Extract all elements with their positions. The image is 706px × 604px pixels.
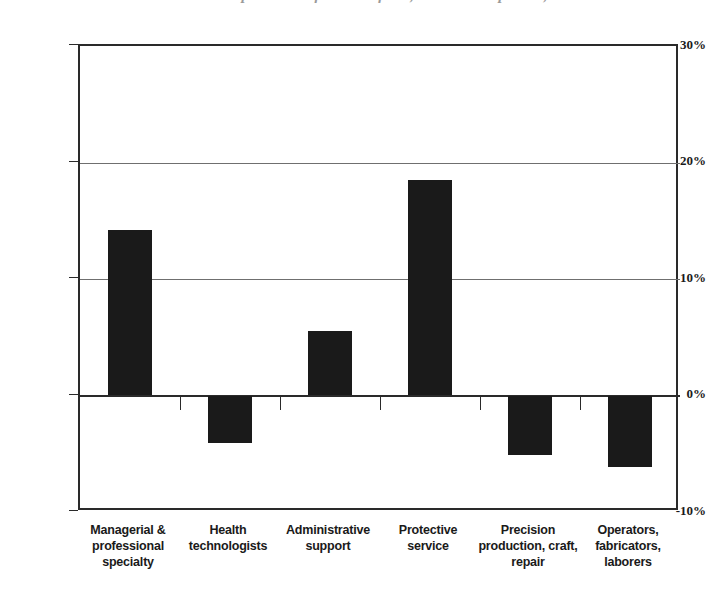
category-label: Administrativesupport xyxy=(278,522,378,554)
category-label-line: professional xyxy=(78,538,178,554)
x-axis-tick xyxy=(380,396,381,410)
x-axis-category-labels: Managerial &professionalspecialty Health… xyxy=(78,522,678,602)
category-label-line: Operators, xyxy=(578,522,678,538)
bar xyxy=(108,230,152,395)
category-label-line: Managerial & xyxy=(78,522,178,538)
bar-chart: Relative occupational shift in work forc… xyxy=(0,0,706,604)
y-axis-tick xyxy=(69,394,78,395)
bar xyxy=(208,396,252,444)
category-label: Protective service xyxy=(378,522,478,554)
category-label-line: production, craft, xyxy=(478,538,578,554)
category-label-line: specialty xyxy=(78,554,178,570)
y-axis-tick xyxy=(69,161,78,162)
category-label-line: support xyxy=(278,538,378,554)
bar xyxy=(308,331,352,395)
gridline-20 xyxy=(80,163,680,164)
category-label-line: Health xyxy=(178,522,278,538)
x-axis-tick xyxy=(580,396,581,410)
bar xyxy=(608,396,652,467)
gridline-10 xyxy=(80,279,680,280)
category-label-line: laborers xyxy=(578,554,678,570)
category-label-line: fabricators, xyxy=(578,538,678,554)
x-axis-tick xyxy=(180,396,181,410)
category-label: Managerial &professionalspecialty xyxy=(78,522,178,570)
category-label: Precisionproduction, craft,repair xyxy=(478,522,578,570)
category-label-line: Precision xyxy=(478,522,578,538)
plot-area xyxy=(78,44,678,510)
category-label-line: technologists xyxy=(178,538,278,554)
chart-title: Relative occupational shift in work forc… xyxy=(0,0,706,4)
y-axis-tick xyxy=(69,277,78,278)
category-label-line: repair xyxy=(478,554,578,570)
category-label-line: Administrative xyxy=(278,522,378,538)
x-axis-tick xyxy=(480,396,481,410)
x-axis-tick xyxy=(280,396,281,410)
category-label: Operators,fabricators,laborers xyxy=(578,522,678,570)
bar xyxy=(408,180,452,396)
category-label: Healthtechnologists xyxy=(178,522,278,554)
y-axis-tick xyxy=(69,510,78,511)
category-label-line: Protective service xyxy=(378,522,478,554)
y-axis-tick xyxy=(69,44,78,45)
bar xyxy=(508,396,552,455)
